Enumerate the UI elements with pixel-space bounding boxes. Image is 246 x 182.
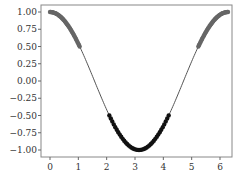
y-tick-label: −0.75 — [9, 128, 37, 138]
cosine-chart: 1.000.750.500.250.00−0.25−0.50−0.75−1.00… — [0, 0, 246, 182]
x-tick-label: 4 — [160, 162, 166, 172]
y-tick-label: 1.00 — [17, 7, 37, 17]
x-tick-label: 3 — [132, 162, 138, 172]
x-tick-label: 1 — [75, 162, 81, 172]
data-marker — [166, 113, 170, 117]
y-tick-label: 0.25 — [17, 59, 37, 69]
y-tick-label: −0.50 — [9, 111, 37, 121]
y-tick-label: 0.50 — [17, 42, 37, 52]
data-marker — [77, 44, 81, 48]
y-tick-label: −0.25 — [9, 93, 37, 103]
x-tick-label: 6 — [217, 162, 223, 172]
y-tick-label: 0.75 — [17, 24, 37, 34]
x-tick-label: 5 — [189, 162, 195, 172]
data-marker — [226, 10, 230, 14]
x-tick-label: 0 — [47, 162, 53, 172]
y-tick-label: −1.00 — [9, 145, 37, 155]
y-tick-label: 0.00 — [17, 76, 37, 86]
x-tick-label: 2 — [104, 162, 110, 172]
